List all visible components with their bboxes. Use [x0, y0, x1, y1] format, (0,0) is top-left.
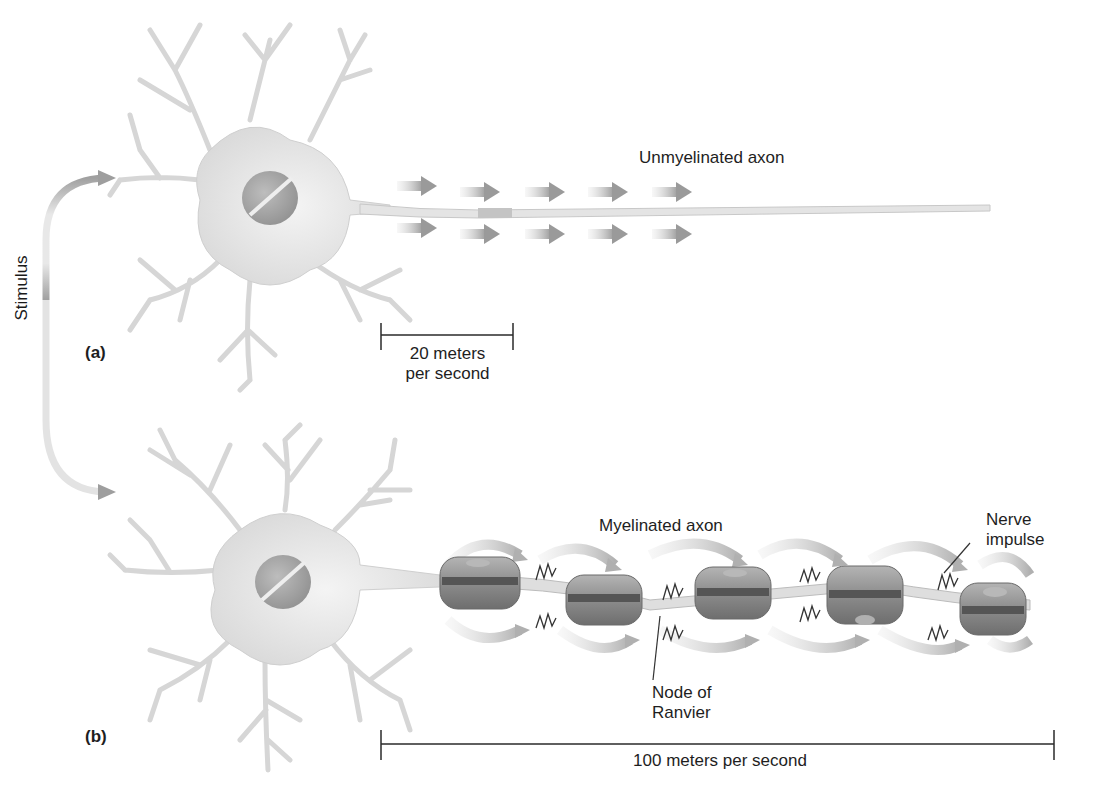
- stimulus-label: Stimulus: [12, 255, 32, 320]
- nerve-impulse-label-line1: Nerve: [986, 510, 1031, 530]
- stimulus-bracket: [46, 170, 116, 500]
- unmyelinated-axon-label: Unmyelinated axon: [639, 148, 785, 168]
- myelinated-axon-label: Myelinated axon: [599, 516, 723, 536]
- myelin-segment: [695, 567, 771, 619]
- speed-label-b: 100 meters per second: [560, 751, 880, 771]
- node-of-ranvier-leader: [653, 616, 660, 680]
- neuron-diagram: [0, 0, 1097, 803]
- nerve-impulse-label-line2: impulse: [986, 530, 1045, 550]
- neuron-b-soma: [211, 514, 440, 665]
- stimulus-arrow-bottom-icon: [98, 484, 116, 500]
- myelin-segment: [566, 575, 642, 625]
- panel-a-label: (a): [85, 343, 106, 363]
- myelin-segment: [960, 583, 1026, 635]
- depolarized-region: [478, 208, 512, 218]
- node-of-ranvier-label-line2: Ranvier: [652, 703, 711, 723]
- speed-label-a-line2: per second: [390, 364, 505, 384]
- node-of-ranvier-label-line1: Node of: [652, 683, 712, 703]
- stimulus-arrow-top-icon: [98, 170, 116, 186]
- speed-label-a-line1: 20 meters: [390, 344, 505, 364]
- unmyelinated-axon: [360, 204, 990, 218]
- myelin-segment: [440, 557, 520, 609]
- panel-b-label: (b): [85, 727, 107, 747]
- myelin-segment: [827, 566, 903, 625]
